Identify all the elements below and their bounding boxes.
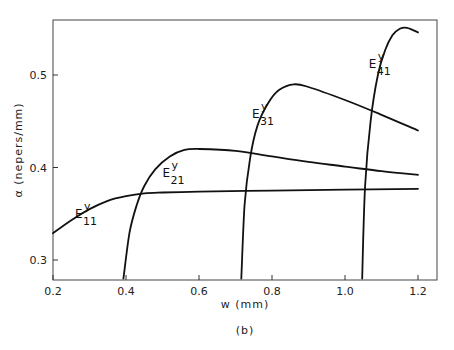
curves [53, 28, 418, 279]
svg-text:31: 31 [260, 115, 274, 128]
y-axis: 0.30.40.5 [30, 69, 59, 267]
figure-caption: (b) [236, 324, 255, 337]
x-tick-label: 0.6 [190, 285, 208, 298]
svg-text:E: E [252, 107, 260, 121]
svg-text:y: y [172, 159, 179, 172]
svg-text:y: y [261, 100, 268, 113]
label-e11y: Ey11 [75, 200, 97, 228]
x-tick-label: 1.2 [409, 285, 427, 298]
svg-text:E: E [75, 207, 83, 221]
x-axis: 0.20.40.60.81.01.2 [44, 275, 427, 298]
x-tick-label: 1.0 [336, 285, 354, 298]
y-tick-label: 0.4 [30, 162, 48, 175]
y-axis-title: α (nepers/mm) [12, 102, 25, 197]
svg-text:E: E [163, 166, 171, 180]
x-tick-label: 0.4 [117, 285, 135, 298]
svg-text:y: y [378, 50, 385, 63]
label-e21y: Ey21 [163, 159, 185, 187]
svg-text:21: 21 [171, 174, 185, 187]
svg-text:41: 41 [377, 65, 391, 78]
x-tick-label: 0.8 [263, 285, 281, 298]
x-tick-label: 0.2 [44, 285, 62, 298]
svg-text:11: 11 [83, 215, 97, 228]
svg-text:y: y [84, 200, 91, 213]
curve-labels: Ey11Ey21Ey31Ey41 [75, 50, 391, 229]
svg-text:E: E [369, 57, 377, 71]
curve-e31y [241, 84, 418, 278]
attenuation-chart: 0.20.40.60.81.01.2 0.30.40.5 Ey11Ey21Ey3… [0, 0, 454, 350]
x-axis-title: w (mm) [221, 298, 270, 311]
label-e41y: Ey41 [369, 50, 391, 78]
y-tick-label: 0.3 [30, 254, 48, 267]
y-tick-label: 0.5 [30, 69, 48, 82]
